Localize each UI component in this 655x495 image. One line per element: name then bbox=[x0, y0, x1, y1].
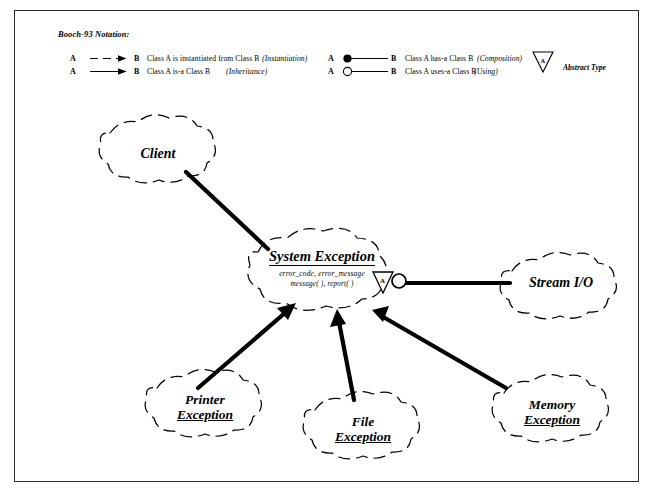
legend-instantiation-kind: (Instantiation) bbox=[262, 54, 307, 63]
diagram-canvas: Booch-93 Notation: A B Class A is instan… bbox=[0, 0, 655, 495]
legend-inheritance-target: B bbox=[134, 67, 139, 76]
class-label-client: Client bbox=[103, 146, 213, 162]
class-label-system-exception: System Exception bbox=[269, 248, 375, 266]
legend-glyph-composition bbox=[343, 54, 388, 62]
class-label-printer-exception-line2: Exception bbox=[150, 407, 260, 422]
relationship-sysexc-uses-stream bbox=[392, 274, 510, 288]
legend-instantiation-description: Class A is instantiated from Class B bbox=[147, 54, 259, 63]
class-label-memory-exception: Memory Exception bbox=[497, 397, 607, 427]
class-label-printer-exception-line1: Printer bbox=[150, 392, 260, 407]
diagram-page: Booch-93 Notation: A B Class A is instan… bbox=[0, 0, 655, 495]
legend-instantiation-target: B bbox=[134, 54, 139, 63]
class-label-memory-exception-line1: Memory bbox=[497, 397, 607, 412]
class-label-file-exception-line1: File bbox=[308, 414, 418, 429]
class-attributes-system-exception: error_code, error_message bbox=[252, 269, 392, 278]
legend-using-kind: (Using) bbox=[474, 67, 498, 76]
class-label-stream-io: Stream I/O bbox=[506, 275, 616, 291]
class-label-printer-exception: Printer Exception bbox=[150, 392, 260, 422]
legend-inheritance-source: A bbox=[70, 67, 76, 76]
legend-composition-target: B bbox=[391, 54, 396, 63]
legend-abstract-type-label: Abstract Type bbox=[563, 63, 606, 72]
legend-inheritance-kind: (Inheritance) bbox=[226, 67, 267, 76]
legend-composition-description: Class A has-a Class B bbox=[405, 54, 473, 63]
legend-using-target: B bbox=[391, 67, 396, 76]
class-body-system-exception: System Exception error_code, error_messa… bbox=[252, 247, 392, 288]
relationship-printer-isa-sysexc bbox=[198, 303, 296, 388]
relationship-client-uses-sysexc bbox=[186, 172, 268, 249]
relationship-file-isa-sysexc bbox=[330, 309, 354, 400]
class-abstract-glyph-system-exception: A bbox=[380, 277, 385, 285]
legend-inheritance-description: Class A is-a Class B bbox=[147, 67, 210, 76]
class-operations-system-exception: message( ), report( ) bbox=[252, 280, 392, 288]
class-label-memory-exception-line2: Exception bbox=[497, 412, 607, 427]
legend-instantiation-source: A bbox=[70, 54, 76, 63]
legend-composition-kind: (Composition) bbox=[477, 54, 522, 63]
legend-abstract-type-glyph: A bbox=[541, 57, 546, 64]
legend-using-description: Class A uses-a Class B bbox=[405, 67, 476, 76]
class-label-file-exception: File Exception bbox=[308, 414, 418, 444]
relationship-memory-isa-sysexc bbox=[372, 306, 506, 388]
class-label-file-exception-line2: Exception bbox=[308, 429, 418, 444]
legend-using-source: A bbox=[328, 67, 334, 76]
legend-title: Booch-93 Notation: bbox=[58, 29, 129, 39]
legend-composition-source: A bbox=[328, 54, 334, 63]
legend-glyph-using bbox=[343, 67, 388, 75]
